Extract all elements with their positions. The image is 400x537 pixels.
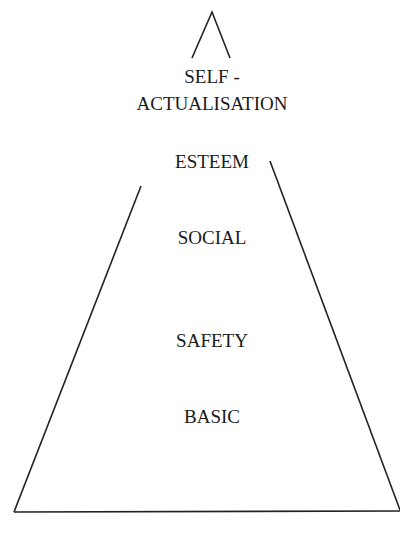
level-safety: SAFETY — [0, 330, 400, 352]
pyramid-base — [14, 511, 400, 512]
level-self-actualisation-line2: ACTUALISATION — [0, 93, 400, 115]
level-social: SOCIAL — [0, 227, 400, 249]
level-esteem: ESTEEM — [0, 151, 400, 173]
apex-lines — [192, 12, 230, 58]
level-basic: BASIC — [0, 406, 400, 428]
level-self-actualisation-line1: SELF - — [0, 66, 400, 88]
